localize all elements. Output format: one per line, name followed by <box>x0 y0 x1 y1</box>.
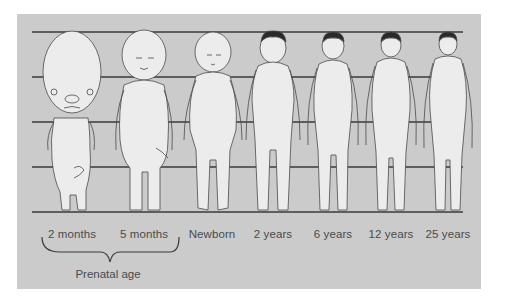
figure-6-years <box>308 32 359 210</box>
age-label-6-years: 6 years <box>314 228 352 240</box>
age-label-2-months: 2 months <box>48 228 96 240</box>
age-label-5-months: 5 months <box>120 228 168 240</box>
prenatal-age-label: Prenatal age <box>75 268 140 280</box>
age-label-2-years: 2 years <box>254 228 292 240</box>
age-label-25-years: 25 years <box>426 228 471 240</box>
figure-2-months <box>43 31 101 210</box>
figure-12-years <box>366 32 417 210</box>
age-label-12-years: 12 years <box>369 228 414 240</box>
prenatal-brace <box>42 237 179 262</box>
figure-25-years <box>424 32 473 210</box>
figure-newborn <box>184 32 242 210</box>
figure-5-months <box>116 30 173 210</box>
figure-2-years <box>246 31 300 210</box>
age-label-newborn: Newborn <box>189 228 236 240</box>
figures-illustration <box>0 0 512 305</box>
